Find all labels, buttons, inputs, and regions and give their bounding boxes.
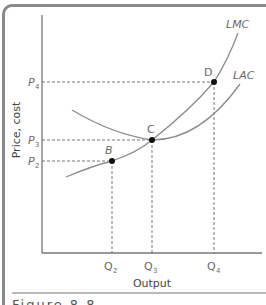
svg-text:Q: Q [207, 260, 216, 273]
svg-text:P: P [28, 155, 35, 168]
svg-text:P: P [28, 76, 35, 89]
svg-text:P: P [28, 134, 35, 147]
y-tick-p4: P 4 [28, 76, 40, 91]
cost-curves-chart: B C D LMC LAC P 4 P 3 P 2 Q 2 Q 3 Q 4 Ou… [0, 0, 266, 305]
svg-text:3: 3 [35, 141, 39, 149]
x-tick-q2: Q 2 [104, 260, 117, 275]
svg-text:2: 2 [113, 267, 117, 275]
y-tick-p3: P 3 [28, 134, 39, 149]
y-tick-p2: P 2 [28, 155, 39, 170]
guide-lines [42, 82, 214, 253]
lmc-label: LMC [226, 18, 250, 31]
lac-label: LAC [233, 69, 255, 82]
point-d-marker [211, 79, 217, 85]
lac-curve [72, 84, 240, 140]
point-c-label: C [147, 123, 155, 136]
x-tick-q3: Q 3 [144, 260, 157, 275]
svg-text:3: 3 [153, 267, 157, 275]
x-tick-q4: Q 4 [207, 260, 221, 275]
point-b-marker [109, 158, 115, 164]
svg-text:2: 2 [35, 162, 39, 170]
svg-text:4: 4 [35, 83, 40, 91]
point-d-label: D [204, 66, 212, 79]
point-b-label: B [105, 144, 113, 157]
figure-caption: Figure 8.8 ... [12, 297, 121, 305]
svg-text:Q: Q [104, 260, 113, 273]
x-axis-title: Output [133, 277, 172, 290]
y-axis-title: Price, cost [10, 101, 23, 158]
svg-text:Q: Q [144, 260, 153, 273]
svg-text:4: 4 [216, 267, 221, 275]
point-c-marker [149, 137, 155, 143]
